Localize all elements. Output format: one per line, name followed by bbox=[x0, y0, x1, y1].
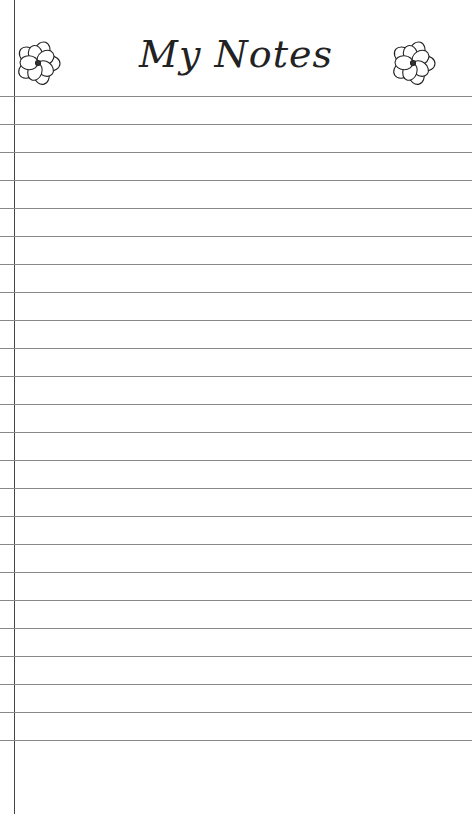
ruled-line bbox=[0, 488, 472, 489]
ruled-line bbox=[0, 208, 472, 209]
ruled-line bbox=[0, 96, 472, 97]
ruled-line bbox=[0, 684, 472, 685]
ruled-line bbox=[0, 292, 472, 293]
ruled-line bbox=[0, 152, 472, 153]
notepad-page: My Notes bbox=[0, 0, 472, 816]
ruled-line bbox=[0, 404, 472, 405]
ruled-line bbox=[0, 600, 472, 601]
ruled-line bbox=[0, 264, 472, 265]
ruled-line bbox=[0, 544, 472, 545]
ruled-line bbox=[0, 516, 472, 517]
ruled-line bbox=[0, 432, 472, 433]
ruled-line bbox=[0, 180, 472, 181]
ruled-line bbox=[0, 376, 472, 377]
ruled-line bbox=[0, 656, 472, 657]
ruled-line bbox=[0, 124, 472, 125]
ruled-line bbox=[0, 712, 472, 713]
ruled-line bbox=[0, 236, 472, 237]
ruled-line bbox=[0, 348, 472, 349]
ruled-line bbox=[0, 320, 472, 321]
ruled-line bbox=[0, 572, 472, 573]
ruled-line bbox=[0, 740, 472, 741]
flower-icon bbox=[390, 40, 436, 86]
margin-line bbox=[14, 0, 15, 814]
ruled-line bbox=[0, 460, 472, 461]
ruled-line bbox=[0, 628, 472, 629]
